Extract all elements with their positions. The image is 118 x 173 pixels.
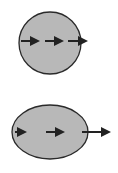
ellipse-shape <box>12 105 109 159</box>
circle-shape <box>19 12 86 74</box>
diagram-canvas <box>0 0 118 173</box>
circle-shape-body <box>19 12 81 74</box>
